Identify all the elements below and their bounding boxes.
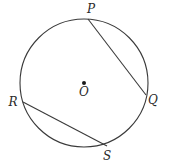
circle-diagram: P Q R S O <box>0 0 170 165</box>
label-o: O <box>79 85 89 99</box>
label-q: Q <box>148 93 158 107</box>
label-p: P <box>86 2 96 16</box>
label-r: R <box>7 95 17 109</box>
chord-pq <box>88 19 146 95</box>
chord-rs <box>23 102 107 146</box>
label-s: S <box>103 149 111 163</box>
